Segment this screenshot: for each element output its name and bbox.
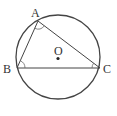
geometry-diagram: A B C O xyxy=(0,0,117,116)
segment-ac xyxy=(38,21,100,68)
label-b: B xyxy=(3,62,11,76)
label-c: C xyxy=(103,62,111,76)
angle-mark-b xyxy=(20,61,25,68)
label-o: O xyxy=(54,44,63,58)
angle-mark-c xyxy=(92,63,94,68)
label-a: A xyxy=(31,6,40,20)
